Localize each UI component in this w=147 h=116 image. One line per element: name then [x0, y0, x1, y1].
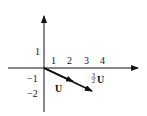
x-tick-3: 3 — [84, 55, 89, 66]
y-tick-1: 1 — [35, 46, 40, 57]
coefficient-denominator: 2 — [92, 78, 95, 84]
y-tick-neg1: −1 — [27, 73, 38, 84]
x-tick-1: 1 — [51, 55, 56, 66]
x-tick-4: 4 — [100, 55, 105, 66]
y-tick-neg2: −2 — [27, 88, 38, 99]
vector-diagram: 1 2 3 4 1 −1 −2 U 3 2 U — [0, 0, 147, 116]
vector-u-label: U — [55, 83, 62, 94]
vector-three-halves-u-label: U — [97, 74, 104, 85]
x-tick-2: 2 — [67, 55, 72, 66]
vector-u — [44, 68, 73, 82]
